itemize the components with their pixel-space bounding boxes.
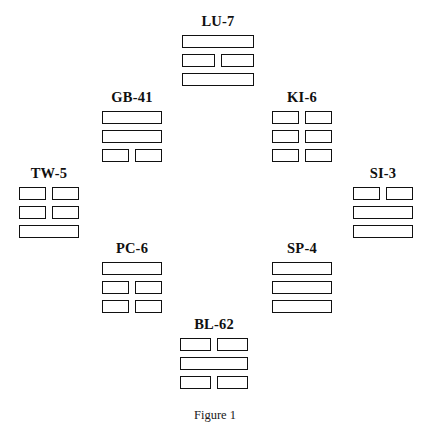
solid-line-row <box>102 130 162 143</box>
figure-canvas: LU-7GB-41KI-6TW-5SI-3PC-6SP-4BL-62 <box>0 0 430 446</box>
broken-line-row <box>102 281 162 294</box>
line-segment <box>305 130 332 143</box>
line-segment <box>102 262 162 275</box>
figure-caption: Figure 1 <box>0 408 430 423</box>
line-segment <box>102 149 129 162</box>
solid-line-row <box>182 35 254 48</box>
solid-line-row <box>353 206 413 219</box>
trigram-tw-5: TW-5 <box>19 166 79 238</box>
broken-line-row <box>272 149 332 162</box>
line-segment <box>19 225 79 238</box>
solid-line-row <box>102 111 162 124</box>
line-segment <box>52 187 79 200</box>
trigram-gb-41: GB-41 <box>102 90 162 162</box>
line-segment <box>386 187 413 200</box>
trigram-lines-gb-41 <box>102 111 162 162</box>
line-segment <box>272 300 332 313</box>
solid-line-row <box>272 300 332 313</box>
broken-line-row <box>182 54 254 67</box>
line-segment <box>102 300 129 313</box>
solid-line-row <box>19 225 79 238</box>
line-segment <box>353 187 380 200</box>
trigram-lines-tw-5 <box>19 187 79 238</box>
broken-line-row <box>102 149 162 162</box>
line-segment <box>52 206 79 219</box>
trigram-lines-sp-4 <box>272 262 332 313</box>
line-segment <box>182 35 254 48</box>
broken-line-row <box>272 111 332 124</box>
broken-line-row <box>19 187 79 200</box>
solid-line-row <box>272 281 332 294</box>
broken-line-row <box>180 376 248 389</box>
line-segment <box>102 130 162 143</box>
solid-line-row <box>102 262 162 275</box>
line-segment <box>135 281 162 294</box>
line-segment <box>135 300 162 313</box>
line-segment <box>353 206 413 219</box>
solid-line-row <box>272 262 332 275</box>
line-segment <box>272 149 299 162</box>
trigram-sp-4: SP-4 <box>272 241 332 313</box>
line-segment <box>272 130 299 143</box>
trigram-pc-6: PC-6 <box>102 241 162 313</box>
line-segment <box>182 54 215 67</box>
line-segment <box>180 357 248 370</box>
line-segment <box>217 338 248 351</box>
solid-line-row <box>182 73 254 86</box>
line-segment <box>353 225 413 238</box>
trigram-label-tw-5: TW-5 <box>31 166 68 181</box>
line-segment <box>19 206 46 219</box>
line-segment <box>180 376 211 389</box>
solid-line-row <box>353 225 413 238</box>
trigram-label-sp-4: SP-4 <box>287 241 317 256</box>
broken-line-row <box>272 130 332 143</box>
line-segment <box>272 281 332 294</box>
trigram-label-lu-7: LU-7 <box>201 14 234 29</box>
trigram-lines-ki-6 <box>272 111 332 162</box>
broken-line-row <box>102 300 162 313</box>
line-segment <box>135 149 162 162</box>
trigram-label-ki-6: KI-6 <box>287 90 317 105</box>
line-segment <box>217 376 248 389</box>
trigram-lines-bl-62 <box>180 338 248 389</box>
line-segment <box>102 111 162 124</box>
trigram-ki-6: KI-6 <box>272 90 332 162</box>
trigram-label-si-3: SI-3 <box>370 166 397 181</box>
solid-line-row <box>180 357 248 370</box>
line-segment <box>221 54 254 67</box>
broken-line-row <box>19 206 79 219</box>
trigram-lines-lu-7 <box>182 35 254 86</box>
trigram-label-gb-41: GB-41 <box>111 90 152 105</box>
line-segment <box>182 73 254 86</box>
trigram-label-bl-62: BL-62 <box>194 317 234 332</box>
line-segment <box>180 338 211 351</box>
trigram-bl-62: BL-62 <box>180 317 248 389</box>
broken-line-row <box>180 338 248 351</box>
line-segment <box>19 187 46 200</box>
trigram-lu-7: LU-7 <box>182 14 254 86</box>
broken-line-row <box>353 187 413 200</box>
trigram-label-pc-6: PC-6 <box>116 241 148 256</box>
line-segment <box>102 281 129 294</box>
trigram-lines-pc-6 <box>102 262 162 313</box>
line-segment <box>272 262 332 275</box>
line-segment <box>305 111 332 124</box>
trigram-lines-si-3 <box>353 187 413 238</box>
line-segment <box>305 149 332 162</box>
line-segment <box>272 111 299 124</box>
trigram-si-3: SI-3 <box>353 166 413 238</box>
